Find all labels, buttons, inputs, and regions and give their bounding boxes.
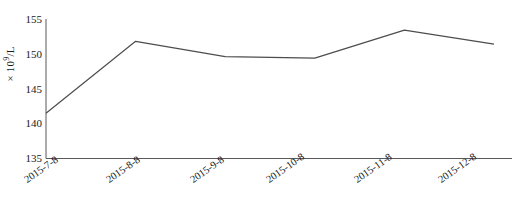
- line-chart: × 109/L 155 150 145 140 135 2015-7-8 201…: [0, 0, 520, 224]
- plot-area: [0, 0, 520, 224]
- series-line-1: [46, 30, 494, 113]
